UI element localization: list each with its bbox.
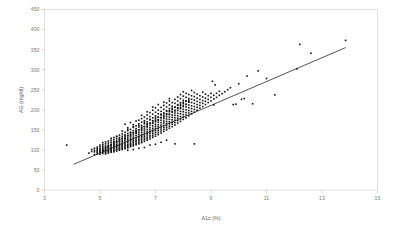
svg-text:200: 200 [31, 107, 40, 113]
svg-text:9: 9 [210, 195, 213, 201]
svg-text:15: 15 [375, 195, 381, 201]
svg-text:250: 250 [31, 87, 40, 93]
svg-text:50: 50 [34, 167, 40, 173]
svg-text:11: 11 [264, 195, 269, 201]
x-axis-title: A1c (%) [201, 215, 220, 221]
chart-canvas: 3579111315 050100150200250300350400450 A… [0, 0, 401, 230]
svg-text:13: 13 [319, 195, 325, 201]
svg-text:100: 100 [31, 147, 40, 153]
scatter-chart: 3579111315 050100150200250300350400450 A… [0, 0, 401, 230]
chart-background [0, 0, 401, 230]
svg-text:5: 5 [99, 195, 102, 201]
svg-text:450: 450 [31, 6, 40, 12]
svg-text:400: 400 [31, 26, 40, 32]
svg-text:150: 150 [31, 127, 40, 133]
svg-text:0: 0 [37, 187, 40, 193]
svg-text:300: 300 [31, 67, 40, 73]
svg-text:3: 3 [43, 195, 46, 201]
y-axis-title: AG (mg/dl) [18, 87, 24, 113]
svg-text:350: 350 [31, 47, 40, 53]
svg-text:7: 7 [154, 195, 157, 201]
